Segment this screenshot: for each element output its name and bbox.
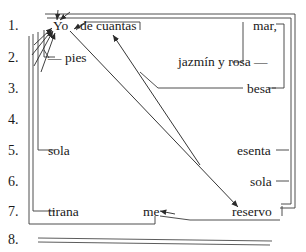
word-besa: besa <box>247 82 271 96</box>
word-sola-5: sola <box>48 144 70 158</box>
line-number-8: 8. <box>8 233 19 247</box>
line-number-3: 3. <box>8 82 19 96</box>
word-jazmin-y-rosa: jazmín y rosa — <box>178 55 268 69</box>
word-de-cuantas: de cuantas <box>80 19 137 33</box>
word-mar: mar, <box>253 19 277 33</box>
word-sola-6: sola <box>250 175 272 189</box>
line-number-6: 6. <box>8 175 19 189</box>
line-number-1: 1. <box>8 19 19 33</box>
word-me: me <box>143 205 160 219</box>
word-pies: — pies <box>48 51 87 65</box>
word-reservo: reservo <box>232 205 272 219</box>
word-esenta: esenta <box>237 144 271 158</box>
line-number-4: 4. <box>8 113 19 127</box>
me-arrow <box>160 211 175 214</box>
row8-double-rule <box>38 238 272 245</box>
poem-connection-diagram: 1. 2. 3. 4. 5. 6. 7. 8. Yo de cuantas — … <box>0 0 306 252</box>
word-tirana: tirana <box>48 205 79 219</box>
line-number-5: 5. <box>8 144 19 158</box>
line-number-7: 7. <box>8 205 19 219</box>
line-number-2: 2. <box>8 51 19 65</box>
word-yo: Yo <box>53 19 68 33</box>
